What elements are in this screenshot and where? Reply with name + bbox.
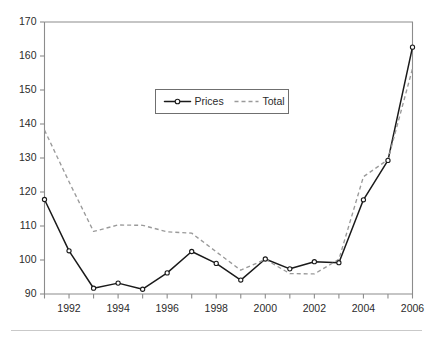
y-tick-label: 130: [19, 151, 37, 163]
y-tick-label: 100: [19, 253, 37, 265]
x-tick-label: 2004: [352, 302, 376, 314]
x-axis-tick-labels: 19921994199619982000200220042006: [57, 302, 424, 314]
data-point-marker: [361, 198, 365, 202]
plot-frame-top-right: [45, 22, 413, 294]
series-layer: [45, 47, 413, 289]
y-tick-label: 170: [19, 15, 37, 27]
data-point-marker: [312, 260, 316, 264]
x-tick-label: 1994: [106, 302, 130, 314]
legend-label-total: Total: [263, 95, 285, 107]
data-point-marker: [141, 287, 145, 291]
y-tick-label: 110: [20, 219, 37, 231]
data-point-marker: [239, 278, 243, 282]
y-tick-label: 150: [19, 83, 37, 95]
x-tick-label: 1996: [155, 302, 179, 314]
y-tick-label: 140: [19, 117, 37, 129]
legend-label-prices: Prices: [195, 95, 224, 107]
x-tick-label: 1998: [205, 302, 229, 314]
y-tick-label: 160: [19, 49, 37, 61]
line-chart: 90100110120130140150160170 1992199419961…: [0, 0, 433, 345]
chart-figure: 90100110120130140150160170 1992199419961…: [0, 0, 433, 345]
y-axis-tick-labels: 90100110120130140150160170: [19, 15, 37, 299]
data-point-marker: [288, 267, 292, 271]
data-point-marker: [67, 249, 71, 253]
axis-ticks: [40, 22, 413, 299]
data-point-marker: [190, 249, 194, 253]
data-point-marker: [263, 257, 267, 261]
y-tick-label: 120: [19, 185, 37, 197]
legend-marker-circle-icon: [175, 99, 180, 104]
data-point-marker: [386, 158, 390, 162]
data-point-marker: [410, 45, 414, 49]
data-point-markers: [42, 45, 414, 291]
data-point-marker: [214, 261, 218, 265]
y-tick-label: 90: [25, 287, 37, 299]
x-tick-label: 2006: [401, 302, 425, 314]
data-point-marker: [165, 271, 169, 275]
x-tick-label: 1992: [57, 302, 81, 314]
x-tick-label: 2000: [254, 302, 278, 314]
chart-legend[interactable]: PricesTotal: [156, 90, 289, 114]
data-point-marker: [91, 286, 95, 290]
plot-frame: [45, 22, 413, 294]
data-point-marker: [337, 261, 341, 265]
x-tick-label: 2002: [303, 302, 327, 314]
data-point-marker: [116, 281, 120, 285]
data-point-marker: [42, 197, 46, 201]
series-line-prices: [45, 47, 413, 289]
